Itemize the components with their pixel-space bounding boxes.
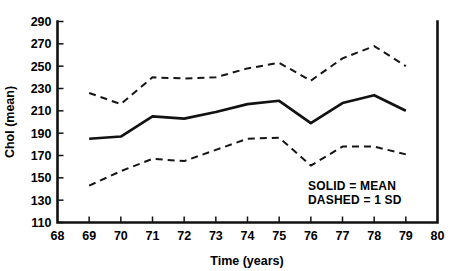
x-tick-label: 71: [146, 229, 160, 243]
x-tick-label: 79: [399, 229, 413, 243]
y-tick-label: 170: [31, 149, 52, 163]
y-axis-title: Chol (mean): [3, 86, 17, 158]
y-tick-label: 130: [31, 194, 52, 208]
x-axis-tick-labels: 68697071727374757677787980: [51, 229, 445, 243]
x-tick-label: 74: [241, 229, 255, 243]
line-chart: 110130150170190210230250270290 686970717…: [0, 0, 455, 271]
x-tick-label: 73: [209, 229, 223, 243]
series-mean-line: [89, 95, 406, 139]
y-tick-label: 150: [31, 171, 52, 185]
x-tick-label: 76: [304, 229, 318, 243]
y-tick-label: 250: [31, 60, 52, 74]
x-tick-label: 75: [272, 229, 286, 243]
x-axis-title: Time (years): [210, 254, 283, 268]
legend-dashed-label: DASHED = 1 SD: [308, 193, 402, 207]
y-axis-tick-labels: 110130150170190210230250270290: [31, 15, 52, 230]
x-tick-label: 70: [114, 229, 128, 243]
x-tick-label: 68: [51, 229, 65, 243]
legend-solid-label: SOLID = MEAN: [308, 179, 396, 193]
x-tick-label: 77: [336, 229, 350, 243]
y-tick-label: 230: [31, 82, 52, 96]
y-tick-label: 270: [31, 37, 52, 51]
x-tick-label: 72: [177, 229, 191, 243]
y-tick-label: 210: [31, 104, 52, 118]
x-tick-label: 78: [367, 229, 381, 243]
x-tick-label: 80: [431, 229, 445, 243]
y-tick-label: 290: [31, 15, 52, 29]
y-tick-label: 190: [31, 127, 52, 141]
chart-figure: 110130150170190210230250270290 686970717…: [0, 0, 455, 271]
series-upper-sd-line: [89, 46, 406, 104]
x-tick-label: 69: [82, 229, 96, 243]
y-tick-label: 110: [31, 216, 51, 230]
